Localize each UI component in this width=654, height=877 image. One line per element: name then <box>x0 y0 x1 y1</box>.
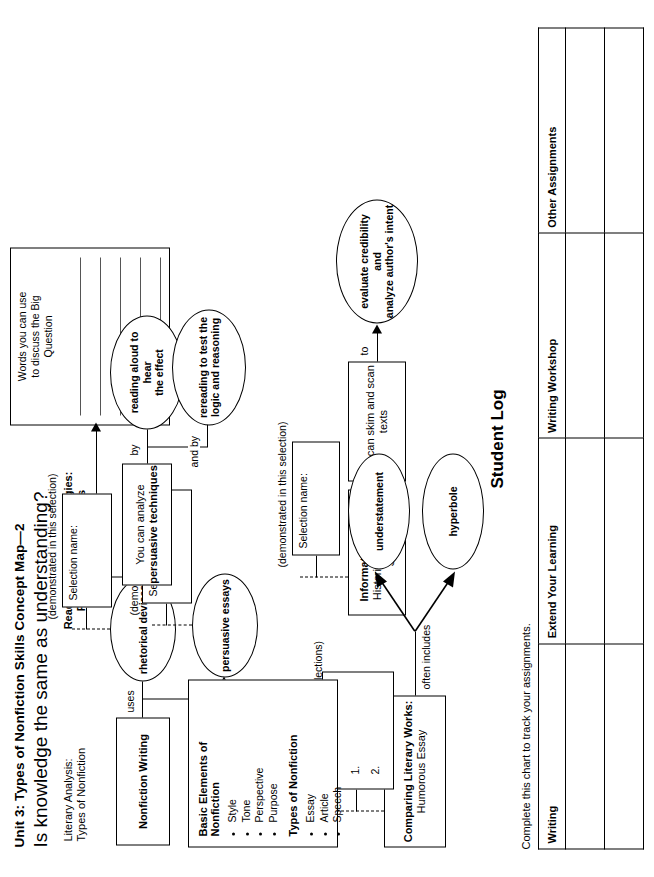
connector-label-often-includes: often includes <box>420 622 432 691</box>
dashed-rhetorical-selection <box>72 628 110 629</box>
list-item: Speech <box>331 690 345 822</box>
selection-box-informational[interactable]: Selection name: <box>292 441 340 555</box>
line-often-includes <box>415 631 416 695</box>
student-log-title: Student Log <box>488 0 508 877</box>
node-persuasive-essays-label: persuasive essays <box>219 575 232 676</box>
list-item: Purpose <box>267 690 281 822</box>
dashed-informational-selection <box>300 576 348 577</box>
dashed-persuasive-tick <box>166 603 167 625</box>
table-header-row: Writing Extend Your Learning Writing Wor… <box>539 28 566 849</box>
table-cell[interactable] <box>566 643 605 848</box>
node-rereading-line1: rereading to test the <box>197 313 210 422</box>
basic-elements-heading: Basic Elements of Nonfiction <box>197 690 221 836</box>
node-comparing-works-line1: Comparing Literary Works: <box>402 700 415 842</box>
word-bank-title-line2: to discuss the Big <box>29 248 42 424</box>
selection-box-informational-label: Selection name: <box>297 448 309 548</box>
connector-label-to: to <box>358 344 370 357</box>
selection-box-rhetorical[interactable]: Selection name: <box>62 493 112 607</box>
word-bank-title-line3: Question <box>42 248 55 424</box>
table-cell[interactable] <box>566 233 605 438</box>
table-cell[interactable] <box>566 438 605 643</box>
caption-rhetorical-selection: (demonstrated in this selection) <box>46 473 58 619</box>
node-understatement: understatement <box>348 453 410 569</box>
word-bank-title-line1: Words you can use <box>16 248 29 424</box>
list-item: Tone <box>240 690 254 822</box>
node-hyperbole-label: hyperbole <box>447 482 460 540</box>
worksheet-page: Unit 3: Types of Nonfiction Skills Conce… <box>0 0 654 877</box>
page-title: Unit 3: Types of Nonfiction Skills Conce… <box>12 523 27 847</box>
table-cell[interactable] <box>605 643 644 848</box>
word-bank-line[interactable] <box>61 257 81 415</box>
node-rereading: rereading to test the logic and reasonin… <box>172 309 246 425</box>
dashed-comparing-tick <box>356 789 357 811</box>
node-evaluate-credibility-line1: evaluate credibility and <box>358 200 383 322</box>
wordbank-arrow-head <box>91 422 101 431</box>
dashed-informational-tick <box>316 555 317 577</box>
list-item: Style <box>226 690 240 822</box>
node-analyze-techniques-line2: persuasive techniques <box>147 465 160 584</box>
node-persuasive-essays: persuasive essays <box>192 573 258 677</box>
word-bank-title: Words you can use to discuss the Big Que… <box>11 248 55 424</box>
table-cell[interactable] <box>605 438 644 643</box>
node-reading-aloud-line1: reading aloud to hear <box>128 316 153 428</box>
column-header-writing: Writing <box>539 643 566 848</box>
node-evaluate-credibility-line2: analyze author's intent <box>383 200 396 321</box>
node-nonfiction-writing: Nonfiction Writing <box>116 717 170 845</box>
column-header-other-assignments: Other Assignments <box>539 28 566 233</box>
student-log-table-wrap: Writing Extend Your Learning Writing Wor… <box>538 27 644 849</box>
list-item: Perspective <box>253 690 267 822</box>
connector-label-and-by: and by <box>188 433 200 469</box>
student-log-table: Writing Extend Your Learning Writing Wor… <box>538 27 644 849</box>
selection-item[interactable]: 1. <box>345 678 365 774</box>
node-understatement-label: understatement <box>373 468 386 555</box>
worksheet-sheet-rotated: Unit 3: Types of Nonfiction Skills Conce… <box>0 0 654 877</box>
table-cell[interactable] <box>605 28 644 233</box>
connector-label-by: by <box>128 442 140 457</box>
types-nonfiction-heading: Types of Nonfiction <box>287 690 299 836</box>
basic-elements-card: Basic Elements of Nonfiction Style Tone … <box>188 679 338 847</box>
types-nonfiction-list: Essay Article Speech <box>304 690 345 836</box>
dashed-rhetorical-tick <box>86 607 87 629</box>
student-log-intro: Complete this chart to track your assign… <box>520 623 532 849</box>
selection-item[interactable]: 2. <box>365 678 385 774</box>
list-item: Essay <box>304 690 318 822</box>
literary-analysis-label: Literary Analysis: Types of Nonfiction <box>62 747 88 841</box>
node-hyperbole: hyperbole <box>422 453 484 569</box>
node-analyze-techniques: You can analyze persuasive techniques <box>122 463 172 585</box>
node-rereading-line2: logic and reasoning <box>209 313 222 420</box>
literary-analysis-line2: Types of Nonfiction <box>75 747 88 841</box>
selection-box-comparing-items[interactable]: 1. 2. <box>345 678 385 782</box>
literary-analysis-line1: Literary Analysis: <box>62 747 75 841</box>
node-comparing-works-line2: Humorous Essay <box>415 729 428 813</box>
caption-informational-selection: (demonstrated in this selection) <box>276 421 288 567</box>
basic-elements-list: Style Tone Perspective Purpose <box>226 690 280 836</box>
line-and-by <box>207 423 208 447</box>
node-nonfiction-writing-label: Nonfiction Writing <box>137 733 150 828</box>
table-cell[interactable] <box>605 233 644 438</box>
table-cell[interactable] <box>566 28 605 233</box>
evaluate-arrow-head <box>372 324 382 333</box>
node-analyze-techniques-line1: You can analyze <box>134 484 147 564</box>
fanout-arrows <box>368 561 464 631</box>
table-row[interactable] <box>605 28 644 849</box>
list-item: Article <box>318 690 332 822</box>
table-row[interactable] <box>566 28 605 849</box>
line-to <box>377 329 378 361</box>
connector-label-uses: uses <box>124 688 136 714</box>
selection-box-rhetorical-label: Selection name: <box>67 500 79 600</box>
node-evaluate-credibility: evaluate credibility and analyze author'… <box>336 199 418 323</box>
dashed-persuasive-selection <box>152 624 192 625</box>
column-header-extend-your-learning: Extend Your Learning <box>539 438 566 643</box>
node-reading-aloud-line2: the effect <box>153 345 166 400</box>
column-header-writing-workshop: Writing Workshop <box>539 233 566 438</box>
word-bank-line[interactable] <box>81 257 101 415</box>
